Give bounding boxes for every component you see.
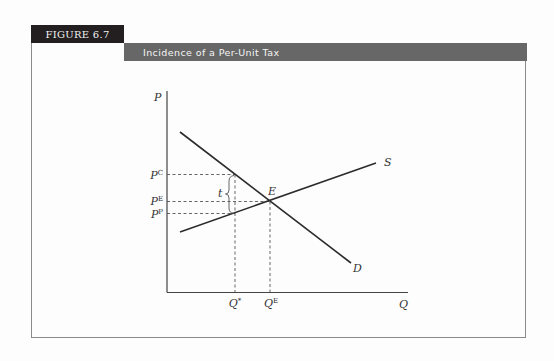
tax-label: t: [218, 187, 223, 200]
equilibrium-label: E: [267, 185, 276, 198]
tax-brace: [226, 176, 235, 214]
pc-label: PC: [149, 169, 163, 182]
pe-label: PE: [149, 195, 163, 208]
demand-label: D: [352, 262, 362, 275]
demand-curve: [180, 132, 351, 263]
supply-label: S: [384, 156, 392, 169]
x-axis-label: Q: [399, 298, 408, 311]
pp-label: PP: [150, 208, 163, 221]
supply-curve: [180, 163, 376, 232]
qe-label: QE: [264, 297, 278, 310]
tax-incidence-chart: P Q PC PE PP Q* QE t E S D: [0, 0, 554, 361]
qstar-label: Q*: [229, 297, 242, 310]
y-axis-label: P: [153, 91, 162, 104]
